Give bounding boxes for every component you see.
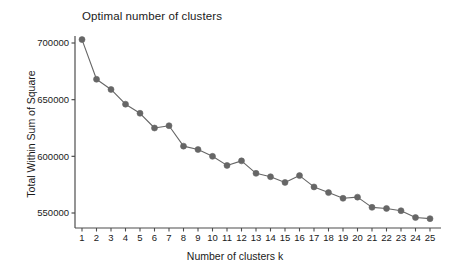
x-tick-label: 9	[195, 232, 200, 243]
data-point	[137, 110, 143, 116]
x-tick-label: 7	[166, 232, 171, 243]
data-point	[224, 162, 230, 168]
x-tick-label: 6	[152, 232, 157, 243]
data-point	[413, 215, 419, 221]
x-tick-label: 24	[410, 232, 421, 243]
x-tick-label: 14	[265, 232, 276, 243]
data-point	[210, 153, 216, 159]
x-tick-label: 25	[425, 232, 436, 243]
data-point	[340, 195, 346, 201]
x-tick-label: 1	[79, 232, 84, 243]
plot-area: 550000600000650000700000 123456789101112…	[0, 0, 470, 272]
data-point	[282, 179, 288, 185]
data-point	[427, 216, 433, 222]
data-point	[94, 76, 100, 82]
chart-container: Optimal number of clusters Total Within …	[0, 0, 470, 272]
x-tick-label: 19	[338, 232, 349, 243]
x-tick-label: 15	[280, 232, 291, 243]
y-tick-label: 700000	[37, 37, 69, 48]
y-tick-label: 600000	[37, 151, 69, 162]
data-point	[311, 184, 317, 190]
x-axis: 1234567891011121314151617181920212223242…	[75, 228, 441, 243]
x-tick-label: 12	[236, 232, 247, 243]
data-point	[166, 123, 172, 129]
y-tick-label: 550000	[37, 207, 69, 218]
x-tick-label: 3	[108, 232, 113, 243]
x-tick-label: 13	[251, 232, 262, 243]
data-point	[326, 190, 332, 196]
data-point	[181, 143, 187, 149]
x-tick-label: 17	[309, 232, 320, 243]
x-tick-label: 4	[123, 232, 128, 243]
data-point	[297, 173, 303, 179]
data-series-line	[82, 40, 430, 219]
x-tick-label: 16	[294, 232, 305, 243]
data-point	[108, 86, 114, 92]
x-tick-label: 5	[137, 232, 142, 243]
data-point	[123, 101, 129, 107]
x-tick-label: 18	[323, 232, 334, 243]
data-point	[369, 204, 375, 210]
x-tick-label: 23	[396, 232, 407, 243]
data-point	[268, 174, 274, 180]
data-point	[384, 205, 390, 211]
x-tick-label: 11	[222, 232, 232, 243]
x-tick-label: 21	[367, 232, 378, 243]
y-tick-label: 650000	[37, 94, 69, 105]
data-point	[355, 194, 361, 200]
x-tick-label: 20	[352, 232, 363, 243]
data-point	[152, 125, 158, 131]
data-point	[239, 158, 245, 164]
y-axis: 550000600000650000700000	[37, 36, 75, 228]
x-tick-label: 22	[381, 232, 392, 243]
data-point	[79, 37, 85, 43]
x-tick-label: 2	[94, 232, 99, 243]
x-tick-label: 8	[181, 232, 186, 243]
x-tick-label: 10	[207, 232, 218, 243]
data-point	[253, 170, 259, 176]
data-point	[398, 208, 404, 214]
data-point	[195, 147, 201, 153]
data-point-markers	[79, 37, 433, 222]
